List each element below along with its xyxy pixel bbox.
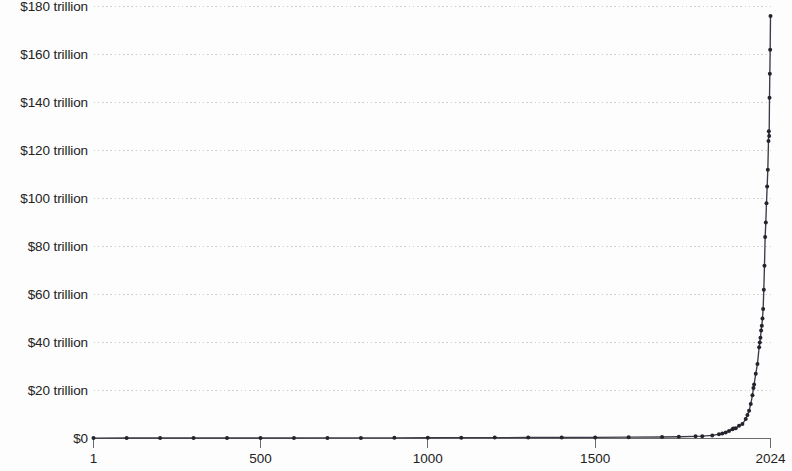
x-axis-tick-label: 2024 — [755, 452, 785, 466]
x-axis-tick-label: 500 — [249, 452, 272, 466]
x-axis-tick-labels: 1500100015002024 — [0, 0, 792, 471]
x-axis-tick-label: 1000 — [413, 452, 443, 466]
x-axis-tick-label: 1500 — [580, 452, 610, 466]
x-axis-tick-label: 1 — [90, 452, 98, 466]
chart-container: $0$20 trillion$40 trillion$60 trillion$8… — [0, 0, 792, 471]
